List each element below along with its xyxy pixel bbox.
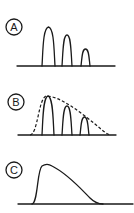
peak-a-2 <box>62 35 72 66</box>
peak-b-1 <box>42 96 54 135</box>
curve-c <box>32 165 103 205</box>
peak-b-3 <box>80 117 89 135</box>
panel-c: C <box>6 162 133 204</box>
label-b: B <box>12 96 19 108</box>
label-a: A <box>10 21 18 33</box>
peak-a-3 <box>81 49 90 66</box>
peak-b-2 <box>62 106 72 135</box>
diagram: A B C <box>0 0 134 213</box>
panel-a: A <box>6 19 115 66</box>
peak-a-1 <box>42 27 55 66</box>
label-c: C <box>10 164 18 176</box>
panel-b: B <box>8 94 116 135</box>
